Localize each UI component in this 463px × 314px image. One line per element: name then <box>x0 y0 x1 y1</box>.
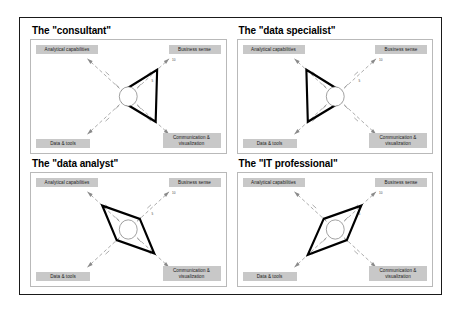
panel-title-data-analyst: The "data analyst" <box>27 157 228 172</box>
axis-label-business-sense: Business sense <box>169 178 221 187</box>
axis-label-business-sense: Business sense <box>375 45 427 54</box>
axis-label-data-and-tools: Data & tools <box>36 272 90 281</box>
center-circle <box>119 220 137 239</box>
panel-title-it-professional: The "IT professional" <box>234 157 435 172</box>
panel-it-professional[interactable]: The "IT professional" <box>234 157 435 288</box>
tick-label-outer: 10 <box>379 58 383 62</box>
panel-grid: The "consultant" <box>20 18 441 294</box>
axis-label-communication-visualization: Communication & visualization <box>163 266 221 281</box>
tick-label-outer: 10 <box>172 58 176 62</box>
axis-label-analytical-capabilities: Analytical capabilities <box>36 178 98 187</box>
panel-data-specialist[interactable]: The "data specialist" <box>234 24 435 155</box>
axis-label-communication-visualization: Communication & visualization <box>369 133 427 148</box>
tick-label-inner: 5 <box>358 79 360 83</box>
axis-label-analytical-capabilities: Analytical capabilities <box>243 45 305 54</box>
axis-label-communication-visualization: Communication & visualization <box>163 133 221 148</box>
center-circle <box>119 87 137 106</box>
center-circle <box>326 220 344 239</box>
radar-chart-consultant[interactable]: 10 5 Analytical capabilities Business se… <box>30 39 227 154</box>
radar-chart-data-analyst[interactable]: 10 5 Analytical capabilities Business se… <box>30 172 227 287</box>
axis-label-analytical-capabilities: Analytical capabilities <box>243 178 305 187</box>
panel-title-data-specialist: The "data specialist" <box>234 24 435 39</box>
panel-consultant[interactable]: The "consultant" <box>27 24 228 155</box>
tick-label-outer: 10 <box>172 191 176 195</box>
panel-title-consultant: The "consultant" <box>27 24 228 39</box>
axis-label-data-and-tools: Data & tools <box>243 139 297 148</box>
tick-label-inner: 5 <box>152 212 154 216</box>
axis-label-communication-visualization: Communication & visualization <box>369 266 427 281</box>
axis-label-data-and-tools: Data & tools <box>243 272 297 281</box>
axis-label-analytical-capabilities: Analytical capabilities <box>36 45 98 54</box>
tick-label-outer: 10 <box>379 191 383 195</box>
radar-chart-it-professional[interactable]: 10 5 Analytical capabilities Business se… <box>237 172 434 287</box>
radar-chart-data-specialist[interactable]: 10 5 Analytical capabilities Business se… <box>237 39 434 154</box>
axis-label-business-sense: Business sense <box>375 178 427 187</box>
figure-frame: The "consultant" <box>19 17 442 295</box>
axis-label-business-sense: Business sense <box>169 45 221 54</box>
tick-label-inner: 5 <box>152 79 154 83</box>
axis-label-data-and-tools: Data & tools <box>36 139 90 148</box>
panel-data-analyst[interactable]: The "data analyst" <box>27 157 228 288</box>
center-circle <box>326 87 344 106</box>
